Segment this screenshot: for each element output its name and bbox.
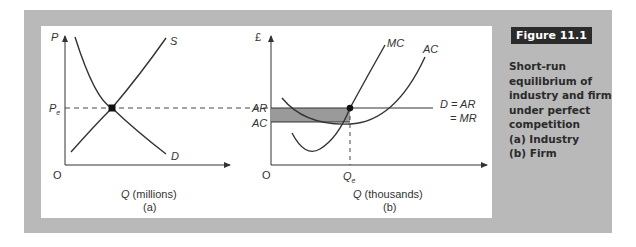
caption-line: under perfect xyxy=(509,103,619,118)
x-label-a: Q (millions) xyxy=(121,188,177,200)
equilibrium-point-b xyxy=(347,105,354,112)
demand-curve xyxy=(75,37,166,154)
y-label-pound: £ xyxy=(255,31,261,43)
caption-line: competition xyxy=(509,117,619,132)
caption-line: (a) Industry xyxy=(509,132,619,147)
origin-a: O xyxy=(53,169,62,181)
ar-label: AR xyxy=(251,102,267,114)
figure-caption: Short-run equilibrium of industry and fi… xyxy=(509,59,619,161)
supply-curve xyxy=(71,38,166,152)
panel-b: £ AR AC MC AC D = AR = MR O Qe Q (thousa… xyxy=(251,31,487,213)
figure-tag: Figure 11.1 xyxy=(511,27,592,44)
pe-label: Pe xyxy=(49,102,60,116)
qe-label: Qe xyxy=(343,170,356,184)
caption-line: equilibrium of xyxy=(509,74,619,89)
mc-label: MC xyxy=(387,37,404,49)
s-label: S xyxy=(170,35,178,47)
caption-line: Short-run xyxy=(509,59,619,74)
caption-line: (b) Firm xyxy=(509,146,619,161)
mr-label: = MR xyxy=(450,112,477,124)
panel-a-label: (a) xyxy=(143,201,156,213)
ac-level-label: AC xyxy=(251,117,267,129)
mc-curve xyxy=(292,45,385,151)
origin-b: O xyxy=(262,169,271,181)
ac-curve-label: AC xyxy=(422,43,438,55)
x-label-b: Q (thousands) xyxy=(353,188,423,200)
y-label-p: P xyxy=(51,31,59,43)
profit-shade xyxy=(272,108,350,122)
d-label: D xyxy=(171,150,179,162)
panel-b-label: (b) xyxy=(383,201,396,213)
panel-a: P Pe S D O Q (millions) (a) xyxy=(49,31,271,213)
caption-line: industry and firm xyxy=(509,88,619,103)
d-ar-label: D = AR xyxy=(440,98,475,110)
equilibrium-point-a xyxy=(109,105,116,112)
